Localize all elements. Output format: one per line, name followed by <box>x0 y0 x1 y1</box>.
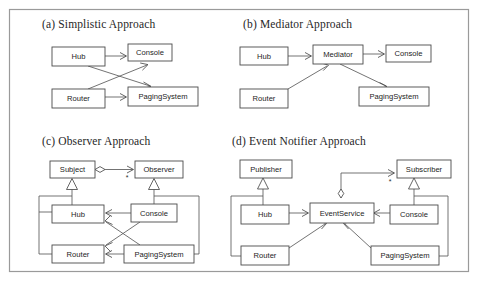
edge-router-paging <box>105 94 127 101</box>
edge-paging-eventservice <box>344 222 372 249</box>
node-router: Router <box>52 89 105 108</box>
panel-a-caption: (a) Simplistic Approach <box>42 18 155 31</box>
node-label: PagingSystem <box>139 92 188 101</box>
node-console: Console <box>128 44 172 61</box>
edge-hub-publisher-generalization <box>258 178 269 205</box>
uml-approaches-figure: (a) Simplistic Approach (b) Mediator App… <box>0 0 478 285</box>
node-subscriber: Subscriber <box>397 160 451 178</box>
multiplicity-label: * <box>389 178 392 185</box>
edge-eventservice-subscriber: * <box>338 170 394 199</box>
edge-console-observer-generalization <box>149 179 160 205</box>
panel-c-caption: (c) Observer Approach <box>42 135 151 148</box>
node-label: Hub <box>257 52 271 61</box>
node-label: Subscriber <box>406 165 443 174</box>
edge-hub-subject-generalization <box>67 179 78 206</box>
node-publisher: Publisher <box>240 160 292 178</box>
node-label: Console <box>136 48 164 57</box>
edge-hub-mediator <box>288 53 312 60</box>
node-hub: Hub <box>52 205 104 223</box>
edge-router-subject-routed-left <box>39 212 52 254</box>
panel-a: Hub Console Router PagingSystem <box>52 44 198 108</box>
edge-mediator-console <box>363 51 385 58</box>
edge-console-subscriber-generalization <box>409 178 420 205</box>
node-subject: Subject <box>50 161 95 178</box>
panel-c: * <box>39 161 199 263</box>
node-label: Hub <box>71 210 85 219</box>
edge-console-eventservice <box>374 210 391 217</box>
node-hub: Hub <box>241 205 289 224</box>
node-event-service: EventService <box>310 203 374 223</box>
node-hub: Hub <box>52 47 105 66</box>
edge-paging-router <box>106 251 125 258</box>
node-paging-system: PagingSystem <box>359 87 429 106</box>
node-paging-system: PagingSystem <box>128 87 198 106</box>
panel-d-caption: (d) Event Notifier Approach <box>232 135 366 148</box>
edge-router-eventservice <box>289 222 327 249</box>
edge-router-mediator <box>288 63 329 89</box>
node-console: Console <box>390 205 438 224</box>
node-label: Hub <box>72 52 86 61</box>
node-label: Observer <box>143 165 175 174</box>
node-router: Router <box>52 245 104 263</box>
panel-d: * Publisher <box>231 160 451 265</box>
node-label: EventService <box>320 209 365 218</box>
node-label: Publisher <box>250 165 282 174</box>
node-paging-system: PagingSystem <box>371 246 439 265</box>
node-router: Router <box>241 246 289 265</box>
node-label: Console <box>140 209 168 218</box>
edge-hub-console <box>105 53 127 60</box>
node-label: Router <box>254 251 277 260</box>
panel-b: Hub Mediator Console Router PagingSystem <box>240 45 431 108</box>
node-router: Router <box>240 89 288 108</box>
figure-canvas: (a) Simplistic Approach (b) Mediator App… <box>0 0 478 285</box>
node-label: Console <box>400 210 428 219</box>
node-label: PagingSystem <box>381 251 430 260</box>
multiplicity-label: * <box>126 174 129 181</box>
edge-console-hub <box>106 210 132 217</box>
node-mediator: Mediator <box>313 45 363 64</box>
node-label: PagingSystem <box>370 92 419 101</box>
node-console: Console <box>386 45 431 62</box>
node-paging-system: PagingSystem <box>124 245 194 263</box>
edge-hub-eventservice <box>289 210 309 217</box>
panel-b-caption: (b) Mediator Approach <box>243 18 352 31</box>
edge-mediator-paging <box>340 64 387 89</box>
node-label: Console <box>395 49 423 58</box>
node-label: Subject <box>60 165 86 174</box>
node-label: Router <box>67 250 90 259</box>
node-label: Router <box>253 94 276 103</box>
node-console: Console <box>131 204 177 222</box>
node-label: Mediator <box>323 50 353 59</box>
node-label: Hub <box>258 210 272 219</box>
node-label: PagingSystem <box>135 250 184 259</box>
node-hub: Hub <box>240 47 288 65</box>
node-observer: Observer <box>135 161 183 178</box>
edge-subject-observer: * <box>95 166 134 181</box>
node-label: Router <box>67 94 90 103</box>
